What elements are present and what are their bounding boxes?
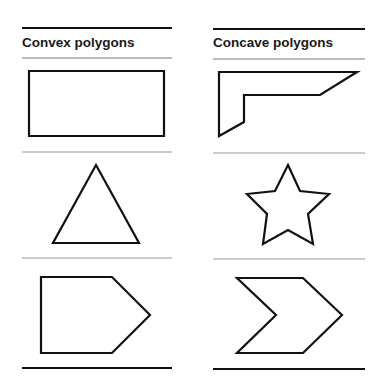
convex-rectangle bbox=[29, 71, 164, 136]
convex-column-title: Convex polygons bbox=[22, 35, 135, 50]
concave-star bbox=[247, 165, 329, 244]
concave-l-shape bbox=[219, 72, 357, 136]
convex-pentagon bbox=[41, 277, 150, 353]
polygon-diagram bbox=[0, 0, 381, 388]
concave-chevron bbox=[237, 278, 342, 353]
convex-triangle bbox=[53, 165, 139, 243]
concave-column-title: Concave polygons bbox=[213, 35, 333, 50]
